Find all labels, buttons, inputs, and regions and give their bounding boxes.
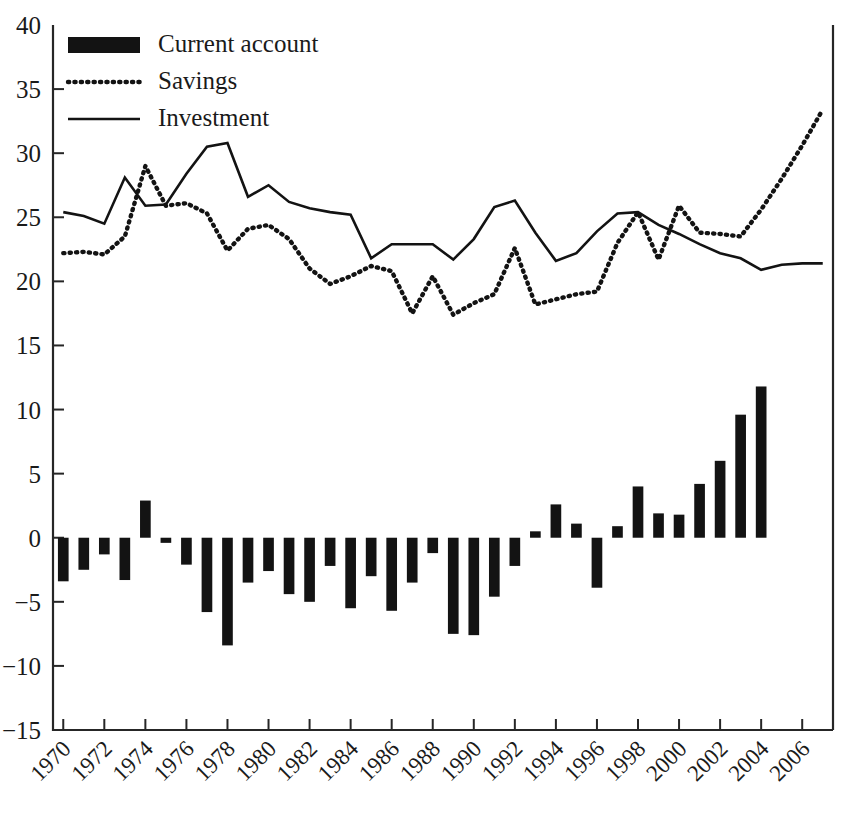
bar xyxy=(448,538,459,634)
bar xyxy=(140,501,151,538)
bar xyxy=(202,538,213,612)
bar xyxy=(633,486,644,537)
y-tick-label: −10 xyxy=(2,653,41,680)
bar xyxy=(407,538,418,583)
y-tick-label: 40 xyxy=(16,12,41,39)
bar xyxy=(427,538,438,553)
bar xyxy=(756,386,767,537)
legend-swatch-current-account xyxy=(68,37,140,53)
y-tick-label: 20 xyxy=(16,268,41,295)
bar xyxy=(181,538,192,565)
legend-label: Current account xyxy=(158,30,318,57)
bar xyxy=(674,515,685,538)
y-tick-label: 35 xyxy=(16,76,41,103)
y-tick-label: 0 xyxy=(29,525,42,552)
economic-indicators-chart: −15−10−50510152025303540 197019721974197… xyxy=(0,0,849,813)
bar xyxy=(161,538,172,543)
bar xyxy=(120,538,131,580)
bar xyxy=(551,504,562,537)
bar xyxy=(263,538,274,571)
bar xyxy=(571,524,582,538)
bar xyxy=(653,513,664,537)
bar xyxy=(715,461,726,538)
bar xyxy=(78,538,89,570)
bar xyxy=(592,538,603,588)
plot-background xyxy=(0,0,849,813)
bar xyxy=(530,531,541,537)
y-tick-label: 10 xyxy=(16,397,41,424)
bar xyxy=(325,538,336,566)
bar xyxy=(99,538,110,555)
bar xyxy=(694,484,705,538)
chart-container: −15−10−50510152025303540 197019721974197… xyxy=(0,0,849,813)
bar xyxy=(468,538,479,635)
bar xyxy=(222,538,233,646)
y-tick-label: −5 xyxy=(14,589,41,616)
bar xyxy=(489,538,500,597)
bar xyxy=(612,526,623,538)
bar xyxy=(243,538,254,583)
y-tick-label: 30 xyxy=(16,140,41,167)
bar xyxy=(366,538,377,576)
y-tick-label: 25 xyxy=(16,204,41,231)
bar xyxy=(510,538,521,566)
bar xyxy=(58,538,69,582)
y-tick-label: −15 xyxy=(2,717,41,744)
bar xyxy=(386,538,397,611)
y-tick-label: 15 xyxy=(16,332,41,359)
legend-label: Investment xyxy=(158,104,269,131)
bar xyxy=(735,415,746,538)
legend-label: Savings xyxy=(158,67,237,94)
y-tick-label: 5 xyxy=(29,461,42,488)
bar xyxy=(345,538,356,609)
bar xyxy=(304,538,315,602)
bar xyxy=(284,538,295,594)
